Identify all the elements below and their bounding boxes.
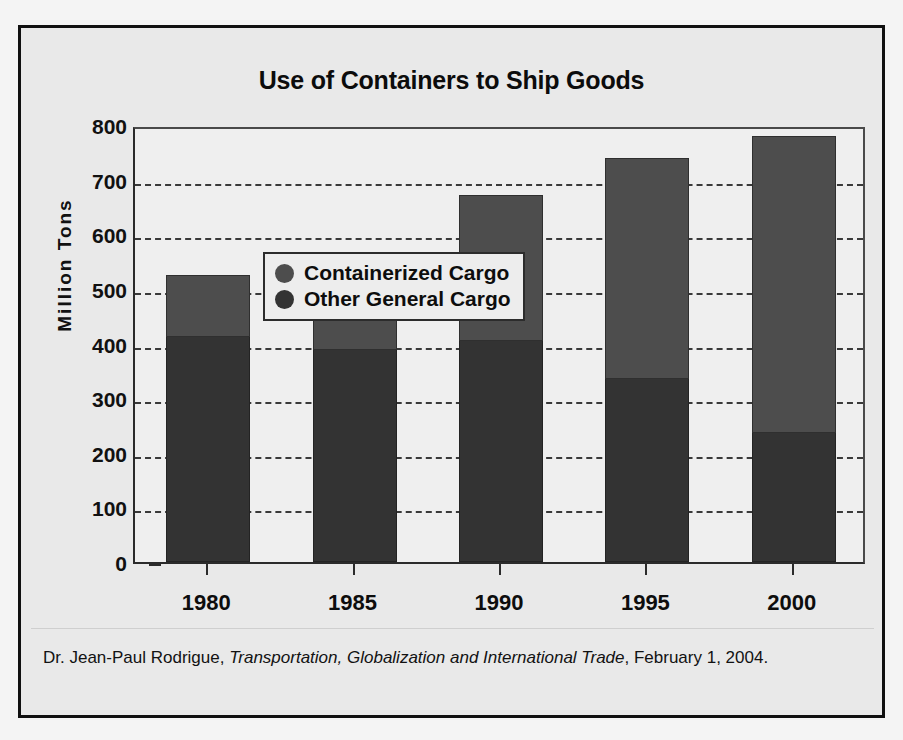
caption-author: Dr. Jean-Paul Rodrigue,: [43, 648, 224, 667]
x-axis-tick-label: 1985: [293, 590, 413, 616]
bar-segment-other-general-cargo: [605, 379, 689, 562]
y-axis-tick-label: 400: [57, 334, 127, 358]
x-axis-tick-label: 1980: [146, 590, 266, 616]
legend-item-label: Containerized Cargo: [304, 261, 509, 285]
legend-swatch-icon: [275, 264, 294, 283]
figure-root: Use of Containers to Ship Goods Million …: [0, 0, 903, 740]
chart-legend: Containerized CargoOther General Cargo: [263, 252, 525, 321]
figure-caption: Dr. Jean-Paul Rodrigue, Transportation, …: [43, 648, 768, 668]
bar-segment-containerized-cargo: [166, 275, 250, 337]
x-axis-tick-mark: [792, 564, 794, 575]
y-axis-tick-label: 0: [57, 552, 127, 576]
figure-frame: Use of Containers to Ship Goods Million …: [18, 25, 885, 718]
bar-segment-other-general-cargo: [313, 350, 397, 562]
bar-group: [605, 125, 689, 562]
bar-segment-other-general-cargo: [166, 337, 250, 562]
x-axis-tick-label: 2000: [732, 590, 852, 616]
bar-group: [313, 125, 397, 562]
legend-swatch-icon: [275, 290, 294, 309]
bar-group: [459, 125, 543, 562]
x-axis-tick-label: 1990: [439, 590, 559, 616]
y-axis-tick-label: 100: [57, 497, 127, 521]
chart-title: Use of Containers to Ship Goods: [21, 66, 882, 95]
caption-work-title: Transportation, Globalization and Intern…: [229, 648, 624, 667]
caption-date: , February 1, 2004.: [625, 648, 769, 667]
caption-divider: [31, 628, 874, 629]
x-axis-tick-mark: [206, 564, 208, 575]
y-axis-tick-label: 600: [57, 224, 127, 248]
x-axis-tick-label: 1995: [585, 590, 705, 616]
x-axis-tick-mark: [499, 564, 501, 575]
y-axis-tick-label: 300: [57, 388, 127, 412]
y-axis-tick-labels: 0100200300400500600700800: [49, 127, 127, 564]
bar-segment-other-general-cargo: [459, 341, 543, 562]
y-axis-tick-label: 200: [57, 443, 127, 467]
legend-item: Containerized Cargo: [275, 260, 511, 286]
bar-group: [752, 125, 836, 562]
bar-segment-containerized-cargo: [605, 158, 689, 379]
bar-segment-containerized-cargo: [752, 136, 836, 433]
x-axis-tick-labels: 19801985199019952000: [133, 590, 865, 624]
legend-item-label: Other General Cargo: [304, 287, 511, 311]
y-axis-tick-label: 800: [57, 115, 127, 139]
x-axis-tick-marks: [133, 564, 865, 576]
plot-area: Containerized CargoOther General Cargo: [133, 127, 865, 564]
y-axis-tick-label: 700: [57, 170, 127, 194]
x-axis-tick-mark: [353, 564, 355, 575]
y-axis-tick-label: 500: [57, 279, 127, 303]
bar-segment-other-general-cargo: [752, 433, 836, 562]
legend-item: Other General Cargo: [275, 286, 511, 312]
x-axis-tick-mark: [645, 564, 647, 575]
bar-group: [166, 125, 250, 562]
